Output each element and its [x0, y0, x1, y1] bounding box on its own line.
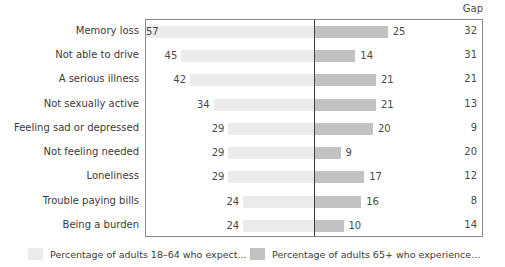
legend-item: Percentage of adults 65+ who experience.…: [250, 248, 480, 260]
center-divider-line: [314, 20, 315, 236]
bar-left-expect: [243, 220, 314, 232]
category-label: Being a burden: [0, 217, 139, 232]
gap-value: 31: [420, 47, 477, 62]
legend-label: Percentage of adults 18–64 who expect...: [50, 249, 247, 260]
gap-value: 8: [420, 193, 477, 208]
category-label: Not able to drive: [0, 47, 139, 62]
category-axis-labels: Memory lossNot able to driveA serious il…: [0, 19, 139, 237]
bar-left-expect: [228, 147, 314, 159]
legend-label: Percentage of adults 65+ who experience.…: [272, 249, 480, 260]
gap-value: 9: [420, 120, 477, 135]
bar-value-right: 25: [393, 24, 406, 39]
bar-value-right: 20: [378, 121, 391, 136]
category-label: Feeling sad or depressed: [0, 120, 139, 135]
bar-value-left: 29: [146, 169, 224, 184]
bar-value-right: 10: [349, 218, 362, 233]
bar-right-experience: [314, 74, 376, 86]
bar-value-left: 34: [146, 97, 210, 112]
bar-left-expect: [228, 171, 314, 183]
bar-value-left: 42: [146, 72, 186, 87]
bar-left-expect: [146, 26, 314, 38]
gap-value: 14: [420, 217, 477, 232]
bar-right-experience: [314, 123, 373, 135]
legend-item: Percentage of adults 18–64 who expect...: [28, 248, 247, 260]
bar-left-expect: [190, 74, 314, 86]
chart-legend: Percentage of adults 18–64 who expect...…: [0, 246, 505, 266]
bar-value-right: 14: [360, 48, 373, 63]
gap-value: 21: [420, 71, 477, 86]
category-label: Not sexually active: [0, 96, 139, 111]
bar-value-left: 24: [146, 194, 239, 209]
bar-left-expect: [228, 123, 314, 135]
gap-value: 20: [420, 144, 477, 159]
gap-value: 32: [420, 23, 477, 38]
legend-swatch-icon: [250, 248, 265, 260]
bar-value-left: 45: [146, 48, 177, 63]
category-label: Trouble paying bills: [0, 193, 139, 208]
bar-value-left: 29: [146, 121, 224, 136]
bar-right-experience: [314, 196, 361, 208]
category-label: Loneliness: [0, 168, 139, 183]
bar-right-experience: [314, 99, 376, 111]
bar-value-left: 29: [146, 145, 224, 160]
bar-value-right: 21: [381, 72, 394, 87]
bar-right-experience: [314, 26, 388, 38]
bar-value-right: 16: [366, 194, 379, 209]
bar-right-experience: [314, 171, 364, 183]
bar-value-left: 24: [146, 218, 239, 233]
bar-right-experience: [314, 220, 344, 232]
category-label: A serious illness: [0, 71, 139, 86]
category-label: Not feeling needed: [0, 144, 139, 159]
bar-right-experience: [314, 147, 341, 159]
bar-left-expect: [243, 196, 314, 208]
gap-value: 12: [420, 168, 477, 183]
bar-value-right: 9: [346, 145, 352, 160]
legend-swatch-icon: [28, 248, 43, 260]
gap-value: 13: [420, 96, 477, 111]
gap-column-header: Gap: [420, 3, 483, 14]
bar-right-experience: [314, 50, 355, 62]
bar-value-right: 17: [369, 169, 382, 184]
bar-value-right: 21: [381, 97, 394, 112]
gap-column-values: 3231211392012814: [420, 19, 477, 237]
bar-left-expect: [181, 50, 314, 62]
bar-left-expect: [214, 99, 314, 111]
category-label: Memory loss: [0, 23, 139, 38]
chart-container: Gap Memory lossNot able to driveA seriou…: [0, 0, 505, 267]
